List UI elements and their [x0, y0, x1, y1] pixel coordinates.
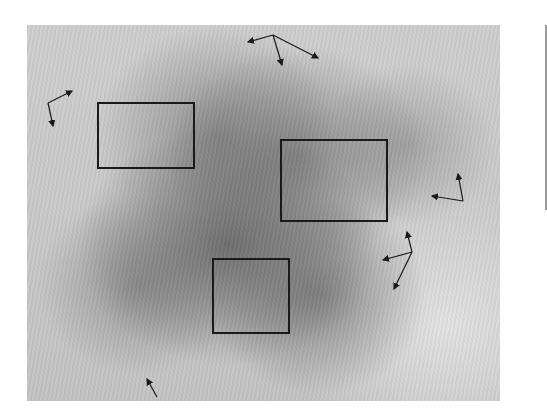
- arrow-top-3: [273, 35, 318, 58]
- annotation-arrows: [0, 0, 547, 419]
- arrow-right-lower-2: [383, 252, 412, 260]
- arrow-left-1: [48, 91, 72, 103]
- arrow-right-upper-1: [458, 174, 463, 201]
- arrow-right-lower-1: [407, 232, 412, 252]
- arrow-right-upper-2: [432, 196, 463, 201]
- arrow-right-lower-3: [394, 252, 412, 289]
- arrow-bottom-1: [147, 379, 157, 397]
- arrow-left-2: [48, 103, 53, 126]
- arrow-top-1: [248, 35, 273, 42]
